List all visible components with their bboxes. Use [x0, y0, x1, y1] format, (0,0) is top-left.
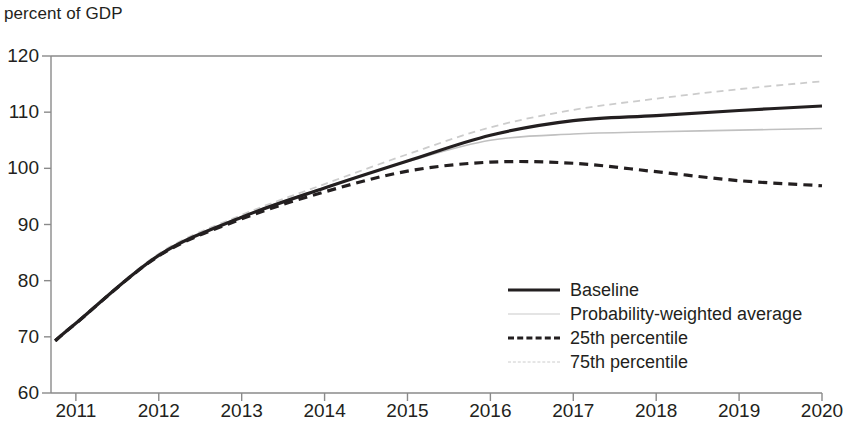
y-tick-label: 110 [0, 101, 39, 123]
legend-item-label: 75th percentile [570, 352, 688, 373]
legend-item-label: Baseline [570, 280, 639, 301]
legend-item-label: 25th percentile [570, 328, 688, 349]
y-tick-label: 60 [0, 382, 39, 404]
x-tick-label: 2018 [635, 400, 677, 422]
x-tick-label: 2011 [55, 400, 96, 422]
legend-line-sample-icon [508, 357, 560, 367]
y-tick-label: 80 [0, 270, 39, 292]
y-tick-label: 100 [0, 157, 39, 179]
legend-line-sample-icon [508, 285, 560, 295]
x-tick-label: 2017 [552, 400, 594, 422]
legend-item[interactable]: 75th percentile [508, 350, 802, 374]
x-tick-label: 2019 [718, 400, 760, 422]
chart-legend: BaselineProbability-weighted average25th… [508, 278, 802, 374]
x-tick-label: 2015 [386, 400, 428, 422]
x-tick-label: 2013 [221, 400, 263, 422]
y-tick-label: 120 [0, 45, 39, 67]
legend-line-sample-icon [508, 333, 560, 343]
x-tick-label: 2020 [801, 400, 843, 422]
y-tick-label: 90 [0, 214, 39, 236]
legend-item[interactable]: Baseline [508, 278, 802, 302]
x-tick-label: 2016 [469, 400, 511, 422]
x-tick-label: 2012 [138, 400, 180, 422]
legend-line-sample-icon [508, 309, 560, 319]
x-tick-label: 2014 [303, 400, 345, 422]
legend-item[interactable]: Probability-weighted average [508, 302, 802, 326]
legend-item[interactable]: 25th percentile [508, 326, 802, 350]
y-tick-label: 70 [0, 326, 39, 348]
legend-item-label: Probability-weighted average [570, 304, 802, 325]
